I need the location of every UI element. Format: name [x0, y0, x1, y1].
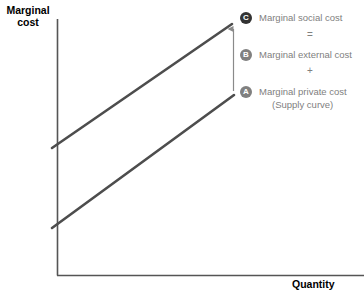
marginal-social-cost-curve [52, 24, 232, 148]
operator-equals: = [303, 30, 317, 40]
legend-item-marginal-external-cost[interactable]: B Marginal external cost [240, 49, 352, 61]
badge-b-icon: B [240, 49, 252, 61]
legend-label-marginal-external-cost: Marginal external cost [259, 49, 352, 61]
plot-area [0, 0, 364, 290]
badge-c-icon: C [240, 12, 252, 24]
legend-label-marginal-private-cost: Marginal private cost [259, 86, 347, 98]
y-axis-title-line2: cost [2, 16, 54, 28]
legend-item-marginal-social-cost[interactable]: C Marginal social cost [240, 12, 342, 24]
legend-sublabel-supply-curve: (Supply curve) [272, 99, 333, 110]
legend-label-marginal-social-cost: Marginal social cost [259, 12, 342, 24]
operator-plus: + [303, 66, 317, 76]
x-axis-title: Quantity [292, 278, 335, 290]
legend-item-marginal-private-cost[interactable]: A Marginal private cost [240, 86, 347, 98]
y-axis-title-line1: Marginal [6, 4, 49, 16]
marginal-private-cost-curve [52, 95, 234, 228]
diagram-canvas: Marginal cost Quantity C Marginal social… [0, 0, 364, 290]
y-axis-title: Marginal cost [2, 4, 54, 28]
badge-a-icon: A [240, 86, 252, 98]
